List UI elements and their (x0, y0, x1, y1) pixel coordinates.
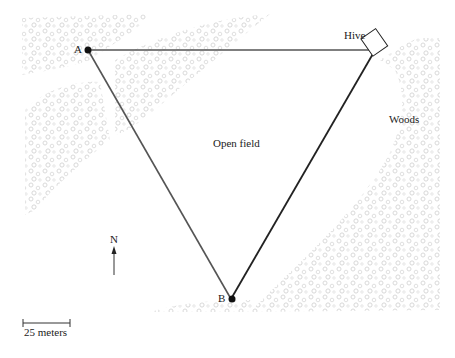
woods-region-diagonal (115, 14, 270, 135)
map-graphic (0, 0, 455, 358)
label-hive: Hive (344, 29, 365, 41)
label-woods: Woods (389, 113, 419, 125)
point-a (85, 47, 92, 54)
woods-region-bottom (150, 300, 255, 312)
point-b (229, 296, 236, 303)
woods-region-left (25, 82, 110, 215)
label-point-b: B (218, 292, 225, 304)
map-canvas: A B Hive Woods Open field N 25 meters (0, 0, 455, 358)
label-scale: 25 meters (24, 326, 67, 338)
label-point-a: A (74, 43, 82, 55)
woods-region-right (250, 38, 440, 312)
label-north: N (110, 233, 118, 245)
label-open-field: Open field (213, 137, 260, 149)
